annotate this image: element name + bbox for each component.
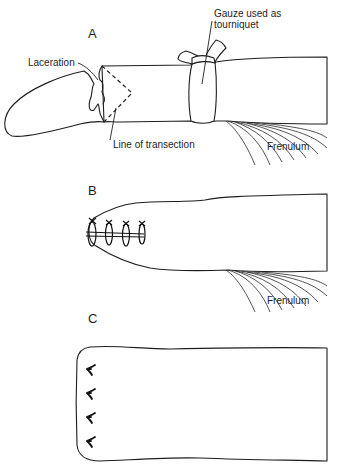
panel-c-label: C xyxy=(88,311,97,326)
frenulum-callout-a: Frenulum xyxy=(267,141,309,152)
panel-c: C xyxy=(76,311,327,461)
panel-b-label: B xyxy=(88,183,97,198)
panel-a-label: A xyxy=(88,26,97,41)
transection-callout: Line of transection xyxy=(113,139,195,150)
gauze-callout-line2: tourniquet xyxy=(214,19,259,30)
gauze-callout-line1: Gauze used as xyxy=(214,8,281,19)
panel-a: A Gauze used as tourniquet La xyxy=(5,8,327,165)
tongue-body-c xyxy=(76,346,327,461)
tongue-tip-a xyxy=(5,71,104,136)
laceration-callout: Laceration xyxy=(28,57,75,68)
tourniquet-band xyxy=(189,61,217,123)
tongue-repair-diagram: A Gauze used as tourniquet La xyxy=(0,0,337,467)
frenulum-callout-b: Frenulum xyxy=(267,295,309,306)
panel-b: B Frenulum xyxy=(86,183,327,312)
